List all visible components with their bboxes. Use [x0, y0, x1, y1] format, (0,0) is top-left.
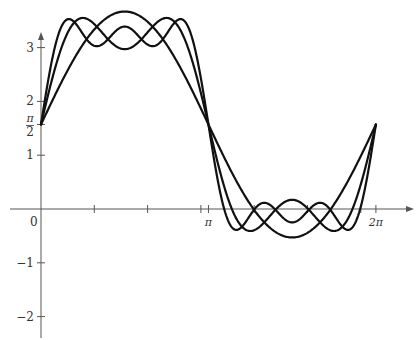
partial-sum-curve-3: [41, 19, 376, 230]
origin-label: 0: [30, 215, 38, 229]
chart-plot-area: π2π 32π21−1−2 0: [0, 0, 419, 340]
y-tick-label: −1: [16, 256, 34, 270]
y-tick-label-denominator: 2: [26, 125, 34, 139]
y-tick-label: 3: [26, 41, 34, 55]
y-axis-arrow-icon: [38, 32, 44, 40]
y-tick-label: 2: [26, 94, 34, 108]
curves: [41, 12, 376, 238]
x-axis-arrow-icon: [406, 206, 414, 212]
x-tick-label: 2π: [368, 216, 384, 229]
y-tick-label: −2: [16, 310, 34, 324]
x-tick-label: π: [204, 216, 213, 229]
y-tick-label: 1: [26, 148, 34, 162]
y-tick-label-numerator: π: [25, 112, 34, 125]
